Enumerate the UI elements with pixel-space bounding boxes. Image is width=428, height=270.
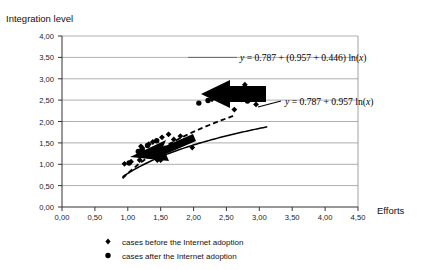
fitted-curves [123, 116, 268, 179]
x-tick-label: 0,50 [88, 213, 103, 222]
y-tick-label: 4,00 [39, 32, 54, 41]
x-tick-label: 3,50 [285, 213, 300, 222]
x-tick-label: 4,50 [351, 213, 366, 222]
y-tick-label: 2,50 [39, 96, 54, 105]
legend-item-label-after: cases after the Internet adoption [122, 252, 237, 261]
upper-equation-annotation: y = 0.787 + (0.957 + 0.446) ln(x) [239, 52, 367, 64]
upper-equation-tail: ) [363, 52, 366, 64]
legend-diamond-icon [105, 239, 110, 245]
x-tick-label: 1,00 [120, 213, 135, 222]
y-tick-label: 3,00 [39, 75, 54, 84]
y-tick-label: 2,00 [39, 118, 54, 127]
x-tick-label: 2,50 [219, 213, 234, 222]
lower-equation-tail: ) [370, 96, 373, 108]
x-tick-label: 3,00 [252, 213, 267, 222]
data-point [205, 98, 210, 103]
legend-circle-icon [105, 253, 110, 258]
annotation-arrows [130, 80, 266, 161]
x-tick-label: 1,50 [153, 213, 168, 222]
x-tick-label: 2,00 [186, 213, 201, 222]
data-point [145, 143, 150, 148]
y-axis-title: Integration level [6, 13, 73, 24]
x-tick-label: 4,00 [318, 213, 333, 222]
y-tick-label: 3,50 [39, 53, 54, 62]
data-point [231, 107, 237, 113]
x-axis-title: Efforts [377, 205, 405, 216]
data-point [159, 134, 165, 140]
x-axis-ticks [62, 207, 358, 211]
y-tick-label: 0,50 [39, 182, 54, 191]
data-point [154, 138, 159, 143]
y-axis-ticks [58, 36, 62, 207]
data-point [196, 100, 201, 105]
y-tick-label: 1,50 [39, 139, 54, 148]
lower-equation-annotation: y = 0.787 + 0.957 ln(x) [284, 96, 373, 108]
scatter-chart: Integration level Efforts [0, 0, 428, 270]
upper-equation-body: = 0.787 + (0.957 + 0.446) ln( [244, 52, 359, 64]
chart-legend: cases before the Internet adoption cases… [105, 238, 243, 261]
y-axis-tick-labels: 4,00 3,50 3,00 2,50 2,00 1,50 1,00 0,50 … [39, 32, 54, 212]
lower-equation-body: = 0.787 + 0.957 ln( [289, 96, 366, 108]
x-axis-tick-labels: 0,00 0,50 1,00 1,50 2,00 2,50 3,00 3,50 … [55, 213, 366, 222]
y-tick-label: 0,00 [39, 203, 54, 212]
x-tick-label: 0,00 [55, 213, 70, 222]
chart-container: Integration level Efforts [0, 0, 428, 270]
y-tick-label: 1,00 [39, 160, 54, 169]
data-point [166, 131, 172, 137]
data-point [126, 160, 131, 165]
data-point [178, 133, 184, 139]
data-point [122, 161, 128, 167]
legend-item-label-before: cases before the Internet adoption [122, 238, 243, 247]
